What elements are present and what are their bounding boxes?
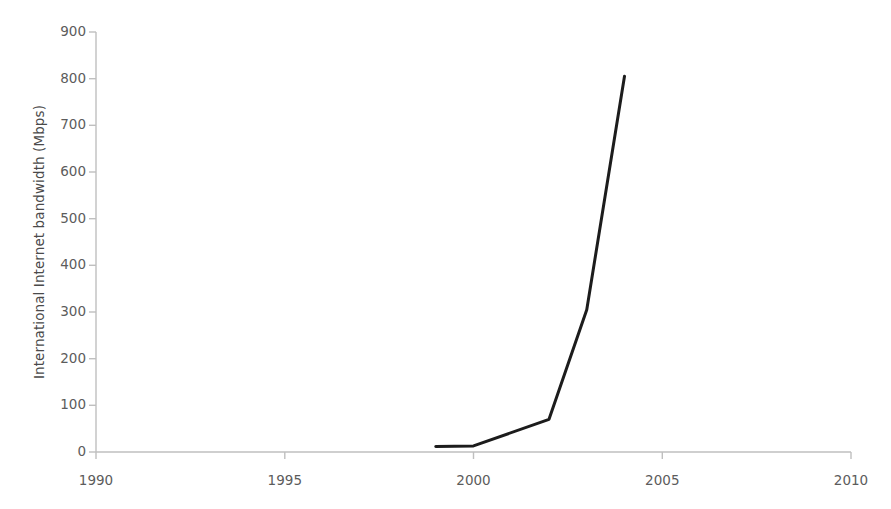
x-axis-ticks [96, 452, 851, 459]
data-series-line [436, 76, 625, 446]
y-axis-ticks [89, 32, 96, 452]
chart-figure: International Internet bandwidth (Mbps) … [0, 0, 891, 509]
plot-area [0, 0, 891, 509]
